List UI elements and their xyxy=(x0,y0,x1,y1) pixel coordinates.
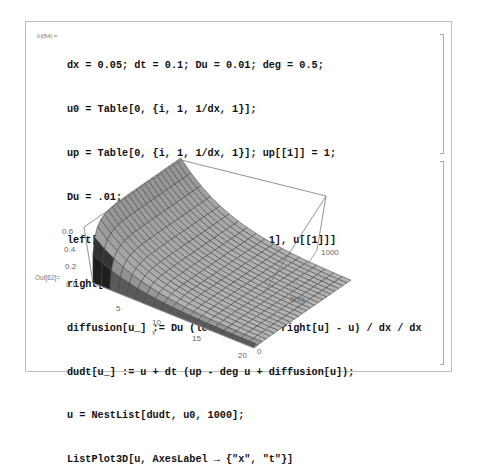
z-axis-ticks: 0.6 0.4 0.2 0.0 xyxy=(62,227,78,289)
svg-text:5: 5 xyxy=(116,304,121,313)
svg-text:500: 500 xyxy=(290,295,304,304)
svg-text:0.2: 0.2 xyxy=(65,262,77,271)
svg-text:0: 0 xyxy=(257,347,262,356)
svg-text:10: 10 xyxy=(152,318,161,327)
t-axis-label: t xyxy=(303,297,305,304)
svg-text:0.0: 0.0 xyxy=(66,280,78,289)
surface-mesh xyxy=(93,158,351,348)
x-axis-label: x xyxy=(152,329,156,336)
code-line: u = NestList[dudt, u0, 1000]; xyxy=(67,409,422,424)
svg-text:20: 20 xyxy=(238,351,247,360)
code-line: ListPlot3D[u, AxesLabel → {"x", "t"}] xyxy=(67,453,422,468)
svg-text:0.6: 0.6 xyxy=(62,227,74,236)
svg-text:15: 15 xyxy=(192,334,201,343)
svg-text:0.4: 0.4 xyxy=(64,245,76,254)
svg-text:1000: 1000 xyxy=(321,248,339,257)
